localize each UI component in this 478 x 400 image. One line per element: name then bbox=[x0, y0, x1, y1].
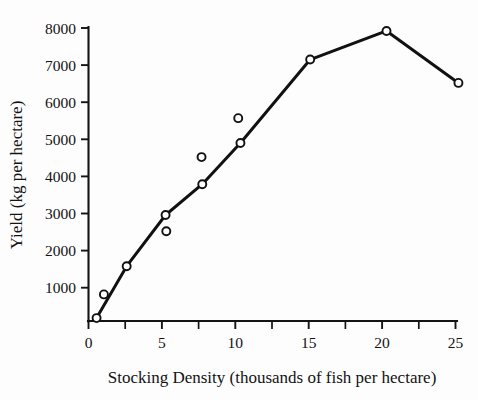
y-axis-tick-labels: 8000 7000 6000 5000 4000 3000 2000 1000 bbox=[45, 20, 76, 297]
y-tick-label: 5000 bbox=[45, 131, 76, 148]
figure-page: 8000 7000 6000 5000 4000 3000 2000 1000 … bbox=[0, 0, 478, 400]
data-point-marker bbox=[198, 153, 206, 161]
y-tick-label: 4000 bbox=[45, 168, 76, 185]
y-tick-label: 2000 bbox=[45, 242, 76, 259]
data-point-marker bbox=[93, 314, 101, 322]
y-tick-label: 7000 bbox=[45, 57, 76, 74]
x-axis-ticks bbox=[89, 321, 456, 329]
x-tick-label: 0 bbox=[85, 334, 93, 351]
x-tick-label: 5 bbox=[158, 334, 166, 351]
y-tick-label: 3000 bbox=[45, 205, 76, 222]
x-tick-label: 20 bbox=[374, 334, 390, 351]
data-point-marker bbox=[198, 180, 206, 188]
data-point-marker bbox=[162, 211, 170, 219]
plot-data-layer bbox=[93, 27, 463, 322]
y-tick-label: 1000 bbox=[45, 279, 76, 296]
data-point-marker bbox=[123, 262, 131, 270]
x-tick-label: 15 bbox=[301, 334, 317, 351]
x-axis-title: Stocking Density (thousands of fish per … bbox=[108, 368, 437, 387]
y-tick-label: 6000 bbox=[45, 94, 76, 111]
data-point-marker bbox=[454, 79, 462, 87]
y-axis-title: Yield (kg per hectare) bbox=[7, 101, 26, 250]
data-point-marker bbox=[100, 290, 108, 298]
data-point-marker bbox=[306, 56, 314, 64]
chart-figure: 8000 7000 6000 5000 4000 3000 2000 1000 … bbox=[0, 0, 478, 400]
x-axis-tick-labels: 0 5 10 15 20 25 bbox=[85, 334, 464, 351]
x-tick-label: 25 bbox=[448, 334, 464, 351]
x-tick-label: 10 bbox=[228, 334, 244, 351]
data-line-0 bbox=[97, 31, 459, 318]
data-point-marker bbox=[234, 114, 242, 122]
data-point-marker bbox=[162, 227, 170, 235]
data-point-marker bbox=[236, 139, 244, 147]
data-point-marker bbox=[383, 27, 391, 35]
axes-spines bbox=[88, 27, 457, 322]
y-tick-label: 8000 bbox=[45, 20, 76, 37]
